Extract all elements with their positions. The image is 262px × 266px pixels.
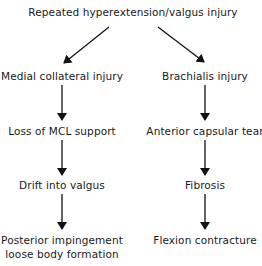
node-posterior-impingement: Posterior impingement (1, 234, 123, 247)
node-brachialis-injury: Brachialis injury (162, 70, 248, 83)
node-fibrosis: Fibrosis (185, 179, 225, 192)
node-flexion-contracture: Flexion contracture (153, 234, 257, 247)
arrow-root-to-brachialis (158, 27, 204, 62)
node-drift-into-valgus: Drift into valgus (19, 179, 105, 192)
node-medial-collateral-injury: Medial collateral injury (1, 70, 123, 83)
root-node: Repeated hyperextension/valgus injury (28, 6, 237, 19)
arrow-root-to-mcl (64, 27, 109, 63)
node-loss-of-mcl-support: Loss of MCL support (8, 125, 116, 138)
node-anterior-capsular-tear: Anterior capsular tear (146, 125, 262, 138)
node-loose-body-formation: loose body formation (5, 248, 118, 261)
